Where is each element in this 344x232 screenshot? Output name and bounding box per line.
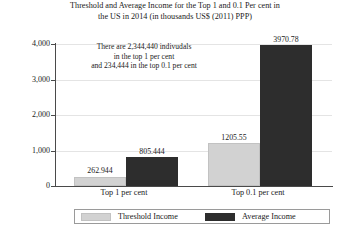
x-category-label-top01: Top 0.1 per cent: [198, 188, 318, 197]
bar-threshold-top1: [74, 177, 126, 186]
chart-legend: Threshold Income Average Income: [74, 209, 330, 224]
y-tick-label-0: 0: [16, 182, 50, 190]
annotation-line-2: in the top 1 per cent: [114, 52, 175, 61]
plot-area: There are 2,344,440 indivudals in the to…: [56, 44, 332, 186]
chart-title: Threshold and Average Income for the Top…: [30, 1, 320, 22]
x-category-label-top1: Top 1 per cent: [64, 188, 184, 197]
bar-average-top1: [126, 157, 178, 186]
annotation-line-1: There are 2,344,440 indivudals: [97, 42, 192, 51]
chart-annotation: There are 2,344,440 indivudals in the to…: [58, 42, 230, 71]
x-axis-line: [55, 186, 333, 187]
bar-threshold-top01: [208, 143, 260, 186]
y-tick-label-4000: 4,000: [16, 40, 50, 48]
legend-swatch-average-income: [205, 213, 235, 221]
chart-container: Threshold and Average Income for the Top…: [0, 0, 344, 232]
y-tick-label-1000: 1,000: [16, 147, 50, 155]
bar-average-top01: [260, 45, 312, 186]
y-tick-label-3000: 3,000: [16, 76, 50, 84]
legend-label-threshold-income: Threshold Income: [118, 212, 178, 221]
chart-title-line-1: Threshold and Average Income for the Top…: [70, 1, 280, 10]
legend-item-average-income[interactable]: Average Income: [205, 212, 329, 221]
chart-title-line-2: the US in 2014 (in thousands US$ (2011) …: [98, 12, 252, 21]
legend-label-average-income: Average Income: [242, 212, 296, 221]
bar-label-average-top1: 805.444: [114, 148, 190, 156]
legend-swatch-threshold-income: [81, 213, 111, 221]
bar-label-average-top01: 3970.78: [248, 36, 324, 44]
y-axis-line: [55, 43, 56, 187]
y-tick-label-2000: 2,000: [16, 111, 50, 119]
annotation-line-3: and 234,444 in the top 0.1 per cent: [91, 61, 197, 70]
legend-item-threshold-income[interactable]: Threshold Income: [75, 212, 205, 221]
